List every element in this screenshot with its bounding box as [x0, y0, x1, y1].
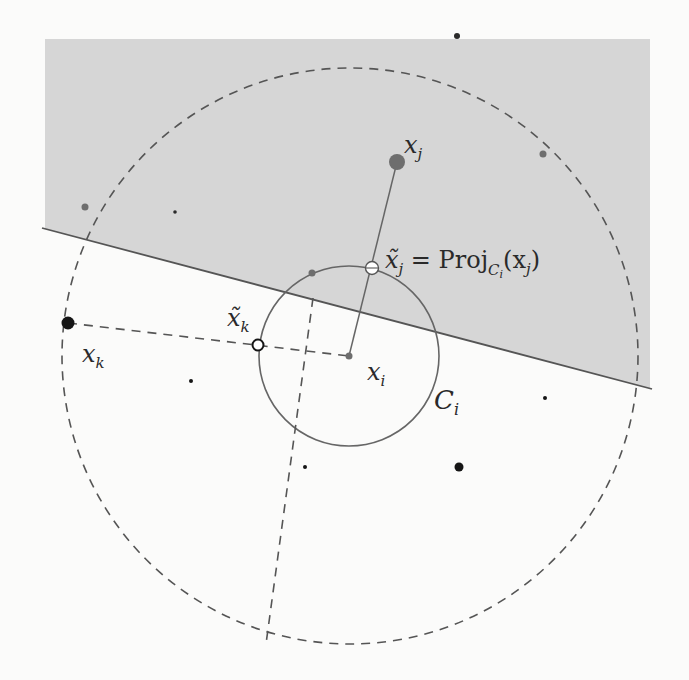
label-x-k-tilde: x̃k — [227, 304, 250, 336]
label-x-k: xk — [82, 340, 105, 372]
point-dot-9 — [455, 463, 464, 472]
point-x-i — [346, 353, 353, 360]
point-dot-4 — [173, 210, 177, 214]
point-dot-2 — [540, 151, 547, 158]
point-dot-7 — [543, 396, 547, 400]
point-dot-3 — [82, 204, 89, 211]
point-dot-8 — [303, 465, 307, 469]
label-c-i: Ci — [434, 385, 459, 419]
projection-diagram: xj x̃j = ProjCi(xj) x̃k xk xi Ci — [0, 0, 689, 680]
shaded-half-plane — [45, 39, 650, 389]
point-x-j — [389, 154, 405, 170]
xk-to-xi-dashed-segment — [68, 323, 349, 356]
point-dot-5 — [309, 270, 316, 277]
point-dot-1 — [454, 33, 460, 39]
label-x-i: xi — [367, 358, 386, 390]
point-dot-6 — [189, 379, 193, 383]
vertical-dashed-line — [266, 298, 313, 644]
point-x-k-tilde — [253, 340, 264, 351]
point-x-k — [62, 317, 75, 330]
